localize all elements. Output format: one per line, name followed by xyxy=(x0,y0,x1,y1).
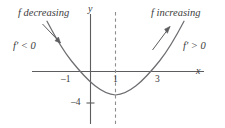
x-tick-label-three: 3 xyxy=(155,75,160,85)
x-axis-label: x xyxy=(196,66,200,76)
annotation-f-increasing: f increasing xyxy=(151,8,200,19)
x-tick-label-one: 1 xyxy=(113,75,118,85)
annotation-f-prime-positive: f′ > 0 xyxy=(183,41,206,52)
x-tick-label-neg-one: –1 xyxy=(61,75,71,85)
annotation-f-decreasing-text: f decreasing xyxy=(18,7,69,18)
increasing-arrow xyxy=(153,27,171,51)
annotation-f-decreasing: f decreasing xyxy=(18,8,69,19)
annotation-f-increasing-text: f increasing xyxy=(151,7,200,18)
decreasing-arrow xyxy=(43,24,61,43)
derivative-sign-parabola-figure: f decreasing f increasing f′ < 0 f′ > 0 … xyxy=(0,0,225,128)
y-axis-label: y xyxy=(88,4,92,14)
annotation-f-prime-negative: f′ < 0 xyxy=(13,41,36,52)
graph-canvas xyxy=(0,0,225,128)
y-tick-label-neg-four: –4 xyxy=(71,98,81,108)
